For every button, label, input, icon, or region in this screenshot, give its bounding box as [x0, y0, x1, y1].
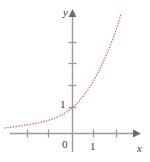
y-tick-label-one: 1 — [60, 99, 66, 110]
x-axis-label: x — [137, 143, 142, 154]
arrow-right-icon — [133, 130, 141, 138]
origin-label: 0 — [62, 139, 68, 150]
x-tick-label-one: 1 — [90, 141, 96, 152]
exponential-graph-figure: y x 0 1 1 — [0, 0, 150, 162]
arrow-up-icon — [69, 9, 77, 17]
y-axis-label: y — [63, 7, 68, 18]
exponential-curve — [5, 13, 121, 128]
plot-canvas — [0, 0, 150, 162]
